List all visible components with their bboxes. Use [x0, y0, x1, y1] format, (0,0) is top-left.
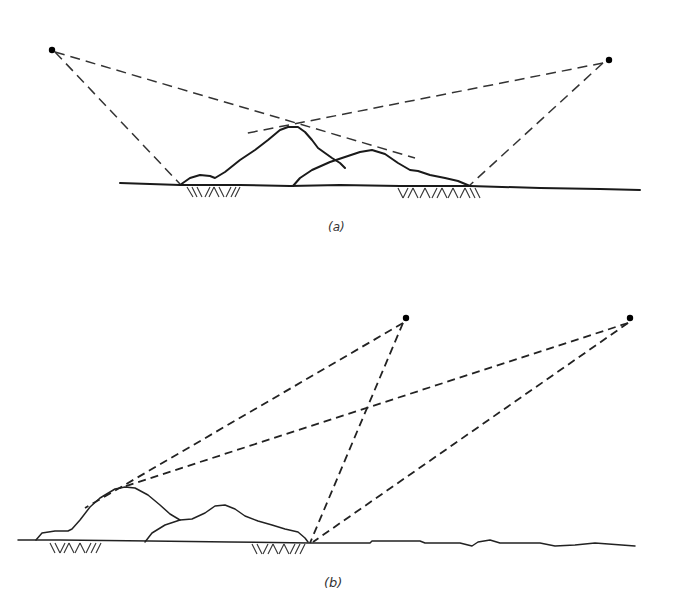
- aircraft-icon-a-right: [591, 52, 627, 63]
- panel-b-caption: (b): [324, 575, 342, 590]
- aircraft-icon-a-left: [34, 42, 70, 53]
- panel-a: [34, 42, 640, 198]
- aircraft-icon-b-left: [388, 310, 424, 321]
- hill-near-a: [180, 127, 345, 185]
- ground-line-b: [18, 540, 635, 546]
- hill-far-a: [293, 150, 470, 186]
- figure-canvas: [0, 0, 690, 611]
- shadow-zone-a-right: [398, 188, 480, 198]
- shadow-zone-a-left: [187, 187, 240, 197]
- panel-b: [18, 310, 648, 554]
- panel-a-caption: (a): [328, 220, 345, 234]
- shadow-zone-b-right: [252, 544, 305, 554]
- aircraft-icon-b-right: [612, 310, 648, 321]
- shadow-zone-b-left: [50, 543, 101, 553]
- hill-far-b: [145, 505, 308, 542]
- sight-lines-a: [55, 52, 603, 185]
